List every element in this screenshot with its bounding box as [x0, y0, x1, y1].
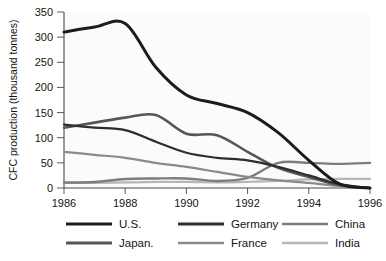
- x-tick-label: 1994: [297, 197, 321, 209]
- y-tick-label: 100: [35, 132, 53, 144]
- legend-label: Germany: [231, 218, 279, 230]
- plot-area-background: [64, 12, 370, 188]
- x-tick-label: 1990: [174, 197, 198, 209]
- legend-label: India: [335, 237, 361, 249]
- y-tick-label: 350: [35, 6, 53, 18]
- chart-figure: 050100150200250300350 198619881990199219…: [0, 0, 386, 261]
- x-tick-label: 1986: [52, 197, 76, 209]
- legend-label: China: [335, 218, 366, 230]
- legend-label: France: [231, 237, 267, 249]
- legend-label: U.S.: [119, 218, 141, 230]
- y-tick-label: 200: [35, 81, 53, 93]
- y-tick-label: 150: [35, 107, 53, 119]
- legend-label: Japan.: [119, 237, 154, 249]
- y-axis-title: CFC production (thousand tonnes): [7, 19, 19, 180]
- y-tick-label: 50: [41, 157, 53, 169]
- x-tick-label: 1988: [113, 197, 137, 209]
- cfc-production-line-chart: 050100150200250300350 198619881990199219…: [0, 0, 386, 261]
- x-tick-label: 1996: [358, 197, 382, 209]
- y-tick-label: 0: [47, 182, 53, 194]
- x-tick-label: 1992: [235, 197, 259, 209]
- y-tick-label: 300: [35, 31, 53, 43]
- y-tick-label: 250: [35, 56, 53, 68]
